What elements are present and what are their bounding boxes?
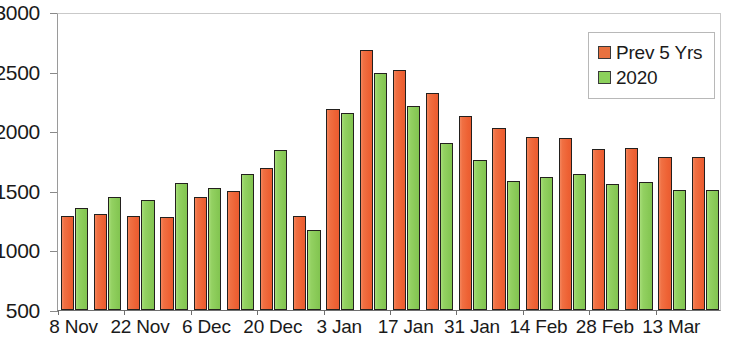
bar-2020 [141, 200, 154, 310]
x-axis: 8 Nov22 Nov6 Dec20 Dec3 Jan17 Jan31 Jan1… [57, 316, 721, 346]
bar-prev-5-yrs [559, 138, 572, 310]
bar-group [58, 14, 91, 310]
bar-prev-5-yrs [293, 216, 306, 310]
x-axis-tick-label: 3 Jan [316, 316, 361, 338]
bar-2020 [374, 73, 387, 310]
x-axis-tick-mark [589, 310, 590, 315]
chart-legend: Prev 5 Yrs 2020 [588, 32, 715, 99]
x-axis-tick-mark [324, 310, 325, 315]
bar-group [158, 14, 191, 310]
bar-2020 [573, 174, 586, 310]
x-axis-tick-label: 6 Dec [182, 316, 231, 338]
x-axis-tick-mark [523, 310, 524, 315]
bar-2020 [307, 230, 320, 310]
bar-2020 [673, 190, 686, 310]
y-axis-tick-label: 1500 [0, 180, 40, 204]
bar-group [124, 14, 157, 310]
bar-group [324, 14, 357, 310]
bar-2020 [108, 197, 121, 310]
legend-swatch-icon-prev-5-yrs [598, 46, 611, 59]
y-axis-tick-mark [50, 311, 58, 312]
bar-2020 [639, 182, 652, 310]
bar-2020 [540, 177, 553, 311]
y-axis-tick-label: 2000 [0, 120, 40, 144]
bar-prev-5-yrs [227, 191, 240, 310]
bar-prev-5-yrs [492, 128, 505, 310]
x-axis-tick-label: 8 Nov [49, 316, 98, 338]
bar-group [224, 14, 257, 310]
x-axis-tick-label: 22 Nov [110, 316, 169, 338]
x-axis-tick-mark [58, 310, 59, 315]
bar-prev-5-yrs [160, 217, 173, 310]
x-axis-tick-mark [656, 310, 657, 315]
y-axis-tick-label: 3000 [0, 1, 40, 25]
bar-prev-5-yrs [393, 70, 406, 310]
bar-2020 [175, 183, 188, 310]
x-axis-tick-mark [124, 310, 125, 315]
y-axis-tick-label: 1000 [0, 239, 40, 263]
bar-group [390, 14, 423, 310]
bar-prev-5-yrs [625, 148, 638, 310]
bar-2020 [208, 188, 221, 310]
x-axis-tick-mark [191, 310, 192, 315]
bar-group [91, 14, 124, 310]
bar-2020 [606, 184, 619, 310]
x-axis-tick-label: 14 Feb [509, 316, 567, 338]
bar-2020 [507, 181, 520, 310]
y-axis: 50010001500200025003000 [0, 0, 46, 330]
bar-group [490, 14, 523, 310]
bar-prev-5-yrs [94, 214, 107, 310]
bar-group [456, 14, 489, 310]
bar-2020 [75, 208, 88, 311]
x-axis-tick-mark [257, 310, 258, 315]
x-axis-tick-mark [456, 310, 457, 315]
x-axis-tick-mark [390, 310, 391, 315]
bar-group [191, 14, 224, 310]
bar-2020 [706, 190, 719, 310]
bar-group [423, 14, 456, 310]
bar-2020 [341, 113, 354, 310]
bar-prev-5-yrs [526, 137, 539, 310]
bar-group [523, 14, 556, 310]
bar-prev-5-yrs [658, 157, 671, 310]
bar-prev-5-yrs [426, 93, 439, 310]
bar-2020 [274, 150, 287, 310]
legend-label-2020: 2020 [616, 67, 657, 89]
x-axis-tick-label: 31 Jan [444, 316, 500, 338]
x-axis-tick-label: 20 Dec [243, 316, 302, 338]
bar-prev-5-yrs [61, 216, 74, 310]
bar-prev-5-yrs [459, 116, 472, 310]
legend-item-2020: 2020 [598, 65, 702, 90]
bar-2020 [440, 143, 453, 310]
bar-prev-5-yrs [360, 50, 373, 310]
bar-2020 [241, 174, 254, 310]
bar-2020 [473, 160, 486, 310]
x-axis-tick-label: 28 Feb [576, 316, 634, 338]
bar-2020 [407, 106, 420, 310]
y-axis-tick-label: 500 [6, 299, 40, 323]
bar-prev-5-yrs [692, 157, 705, 310]
bar-prev-5-yrs [260, 168, 273, 310]
bar-group [257, 14, 290, 310]
y-axis-tick-label: 2500 [0, 61, 40, 85]
legend-item-prev-5-yrs: Prev 5 Yrs [598, 40, 702, 65]
bar-prev-5-yrs [127, 216, 140, 310]
bar-group [357, 14, 390, 310]
bar-group [556, 14, 589, 310]
bar-prev-5-yrs [326, 109, 339, 310]
legend-label-prev-5-yrs: Prev 5 Yrs [616, 42, 702, 64]
bar-chart: 50010001500200025003000 8 Nov22 Nov6 Dec… [0, 0, 748, 349]
x-axis-tick-label: 13 Mar [642, 316, 700, 338]
legend-swatch-icon-2020 [598, 71, 611, 84]
bar-prev-5-yrs [592, 149, 605, 310]
x-axis-tick-label: 17 Jan [378, 316, 434, 338]
bar-group [290, 14, 323, 310]
bar-prev-5-yrs [194, 197, 207, 310]
